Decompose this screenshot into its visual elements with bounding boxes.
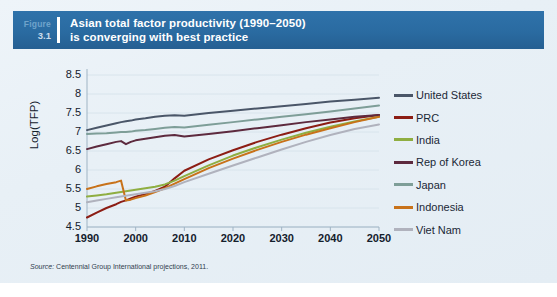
figure-title-line-1: Asian total factor productivity (1990–20… (70, 16, 544, 30)
legend-color-swatch (394, 228, 413, 231)
y-axis-tick-label: 6 (47, 164, 81, 175)
source-text: Centennial Group International projectio… (56, 263, 208, 270)
y-axis-tick-label: 5.5 (47, 183, 81, 194)
x-axis-tick-label: 2020 (210, 233, 256, 244)
x-axis-tick-label: 1990 (64, 233, 110, 244)
figure-title-line-2: is converging with best practice (70, 30, 544, 44)
y-axis-tick-label: 6.5 (47, 145, 81, 156)
chart-region: Log(TFP) 8.587.576.565.554.5 19902000201… (13, 55, 544, 255)
legend-color-swatch (394, 116, 413, 119)
y-axis-title: Log(TFP) (28, 85, 40, 165)
x-axis-tick-label: 2000 (113, 233, 159, 244)
series-lines (87, 98, 379, 218)
y-axis-tick-label: 4.5 (47, 221, 81, 232)
legend-item-label: Viet Nam (416, 224, 461, 236)
legend-item-label: India (416, 134, 440, 146)
legend-color-swatch (394, 138, 413, 141)
x-axis-tick-label: 2030 (259, 233, 305, 244)
source-label: Source: (30, 263, 54, 270)
y-axis-tick-label: 8 (47, 88, 81, 99)
y-axis-tick-label: 7.5 (47, 107, 81, 118)
figure-title: Asian total factor productivity (1990–20… (60, 11, 544, 49)
legend-item[interactable]: India (394, 129, 544, 151)
series-line (87, 117, 379, 201)
legend-color-swatch (394, 183, 413, 186)
legend-item[interactable]: Japan (394, 174, 544, 196)
legend-item[interactable]: Indonesia (394, 196, 544, 218)
legend-item[interactable]: PRC (394, 106, 544, 128)
legend-color-swatch (394, 206, 413, 209)
figure-number-block: Figure 3.1 (13, 11, 57, 49)
series-line (87, 117, 379, 197)
legend-item-label: Rep of Korea (416, 156, 481, 168)
y-axis-tick-label: 8.5 (47, 69, 81, 80)
legend-item[interactable]: United States (394, 84, 544, 106)
x-axis-tick-label: 2010 (161, 233, 207, 244)
legend-item[interactable]: Rep of Korea (394, 151, 544, 173)
y-axis-tick-label: 5 (47, 202, 81, 213)
figure-header-bar: Figure 3.1 Asian total factor productivi… (13, 11, 544, 49)
legend-item[interactable]: Viet Nam (394, 218, 544, 240)
figure-label-word: Figure (24, 19, 51, 30)
source-note: Source: Centennial Group International p… (30, 262, 208, 271)
legend-item-label: Japan (416, 179, 446, 191)
figure-number: 3.1 (38, 30, 51, 42)
legend-color-swatch (394, 94, 413, 97)
chart-legend: United StatesPRCIndiaRep of KoreaJapanIn… (394, 84, 544, 241)
legend-item-label: PRC (416, 112, 439, 124)
legend-color-swatch (394, 161, 413, 164)
y-axis-tick-label: 7 (47, 126, 81, 137)
figure-card: Figure 3.1 Asian total factor productivi… (0, 0, 557, 283)
legend-item-label: United States (416, 89, 482, 101)
x-axis-tick-label: 2040 (307, 233, 353, 244)
legend-item-label: Indonesia (416, 201, 464, 213)
